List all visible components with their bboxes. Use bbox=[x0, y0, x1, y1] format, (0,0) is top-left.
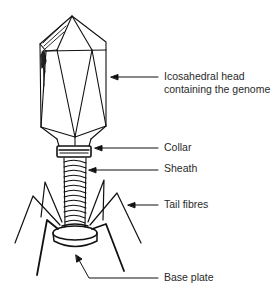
phage-drawing bbox=[0, 0, 278, 288]
label-base-plate: Base plate bbox=[164, 271, 214, 284]
label-sheath: Sheath bbox=[164, 162, 197, 175]
label-tail-fibres: Tail fibres bbox=[164, 198, 208, 211]
label-head-line1: Icosahedral head bbox=[164, 70, 270, 83]
collar bbox=[57, 146, 91, 157]
bacteriophage-diagram: Icosahedral head containing the genome C… bbox=[0, 0, 278, 288]
icosahedral-head bbox=[40, 16, 106, 146]
base-plate bbox=[53, 224, 97, 247]
label-collar: Collar bbox=[164, 141, 191, 154]
label-head: Icosahedral head containing the genome bbox=[164, 70, 270, 96]
sheath bbox=[64, 158, 86, 227]
label-head-line2: containing the genome bbox=[164, 83, 270, 96]
label-arrows bbox=[76, 75, 158, 279]
